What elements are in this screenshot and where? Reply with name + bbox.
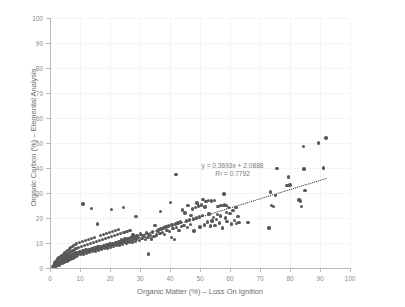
data-point (122, 206, 125, 209)
data-point (169, 201, 172, 204)
data-point (246, 221, 249, 224)
data-point (183, 211, 186, 214)
gridline-horizontal (50, 68, 350, 69)
y-tick-mark (46, 218, 50, 219)
x-tick-label: 60 (215, 275, 245, 282)
x-axis-title: Organic Matter (%) – Loss On Ignition (50, 287, 350, 296)
y-axis-title: Organic Carbon (%) – Elemental Analysis (29, 13, 38, 263)
gridline-horizontal (50, 143, 350, 144)
x-tick-mark (170, 268, 171, 272)
data-point (300, 205, 303, 208)
plot-area (50, 18, 350, 268)
data-point (222, 192, 225, 195)
data-point (228, 212, 231, 215)
data-point (237, 221, 240, 224)
gridline-horizontal (50, 193, 350, 194)
y-tick-mark (46, 93, 50, 94)
x-tick-mark (320, 268, 321, 272)
data-point (134, 215, 137, 218)
x-tick-label: 0 (35, 275, 65, 282)
r-squared-value: R² = 0.7792 (185, 170, 280, 179)
gridline-horizontal (50, 243, 350, 244)
data-point (227, 206, 230, 209)
data-point (209, 224, 212, 227)
data-point (302, 167, 305, 170)
data-point (147, 252, 150, 255)
data-point (317, 141, 320, 144)
y-axis-line (50, 18, 51, 268)
x-tick-mark (290, 268, 291, 272)
data-point (206, 220, 209, 223)
data-point (288, 183, 291, 186)
data-point (151, 230, 154, 233)
data-point (213, 224, 216, 227)
y-tick-label: 0 (0, 265, 43, 272)
gridline-horizontal (50, 43, 350, 44)
data-point (203, 205, 206, 208)
data-point (128, 229, 131, 232)
data-point (177, 229, 180, 232)
data-point (218, 221, 221, 224)
x-tick-mark (260, 268, 261, 272)
data-point (186, 204, 189, 207)
data-point (231, 209, 234, 212)
x-tick-label: 40 (155, 275, 185, 282)
data-point (179, 220, 182, 223)
x-tick-label: 90 (305, 275, 335, 282)
gridline-vertical (350, 18, 351, 268)
y-tick-mark (46, 118, 50, 119)
data-point (302, 145, 305, 148)
x-tick-label: 30 (125, 275, 155, 282)
data-point (192, 229, 195, 232)
data-point (234, 206, 237, 209)
data-point (303, 189, 306, 192)
x-tick-label: 80 (275, 275, 305, 282)
data-point (90, 207, 93, 210)
data-point (159, 210, 162, 213)
data-point (198, 225, 201, 228)
data-point (274, 194, 277, 197)
data-point (189, 223, 192, 226)
y-tick-mark (46, 168, 50, 169)
regression-annotation: y = 0.3693x + 2.0888 R² = 0.7792 (185, 162, 280, 179)
regression-equation: y = 0.3693x + 2.0888 (185, 162, 280, 171)
x-tick-mark (110, 268, 111, 272)
data-point (225, 220, 228, 223)
y-tick-mark (46, 68, 50, 69)
y-tick-mark (46, 143, 50, 144)
x-tick-label: 20 (95, 275, 125, 282)
gridline-horizontal (50, 118, 350, 119)
data-point (188, 218, 191, 221)
data-point (230, 222, 233, 225)
gridline-horizontal (50, 93, 350, 94)
x-tick-label: 70 (245, 275, 275, 282)
data-point (186, 226, 189, 229)
data-point (269, 190, 272, 193)
x-tick-label: 10 (65, 275, 95, 282)
x-tick-mark (140, 268, 141, 272)
y-tick-mark (46, 243, 50, 244)
x-tick-mark (80, 268, 81, 272)
data-point (267, 226, 270, 229)
data-point (207, 212, 210, 215)
data-point (213, 199, 216, 202)
x-tick-mark (50, 268, 51, 272)
data-point (163, 233, 166, 236)
data-point (93, 236, 96, 239)
x-tick-mark (230, 268, 231, 272)
data-point (287, 175, 290, 178)
data-point (272, 205, 275, 208)
y-tick-mark (46, 18, 50, 19)
gridline-horizontal (50, 18, 350, 19)
data-point (219, 214, 222, 217)
data-point (299, 199, 302, 202)
data-point (174, 173, 177, 176)
data-point (173, 238, 176, 241)
data-point (221, 226, 224, 229)
data-point (324, 136, 327, 139)
y-tick-mark (46, 193, 50, 194)
x-tick-mark (350, 268, 351, 272)
x-tick-label: 50 (185, 275, 215, 282)
data-point (81, 202, 84, 205)
scatter-chart: 0102030405060708090100 01020304050607080… (0, 0, 405, 307)
